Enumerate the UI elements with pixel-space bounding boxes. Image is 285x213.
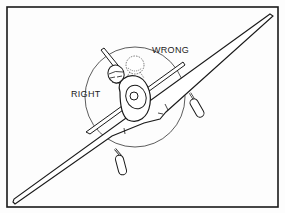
wrong-head-position [126, 56, 144, 78]
engine-cowling [119, 76, 150, 122]
right-label: RIGHT [71, 89, 101, 99]
right-landing-gear [189, 93, 206, 119]
left-landing-gear [115, 149, 128, 176]
airplane-diagram: WRONG RIGHT [0, 0, 285, 213]
diagram-figure: WRONG RIGHT [0, 0, 285, 213]
wrong-label: WRONG [152, 45, 189, 55]
